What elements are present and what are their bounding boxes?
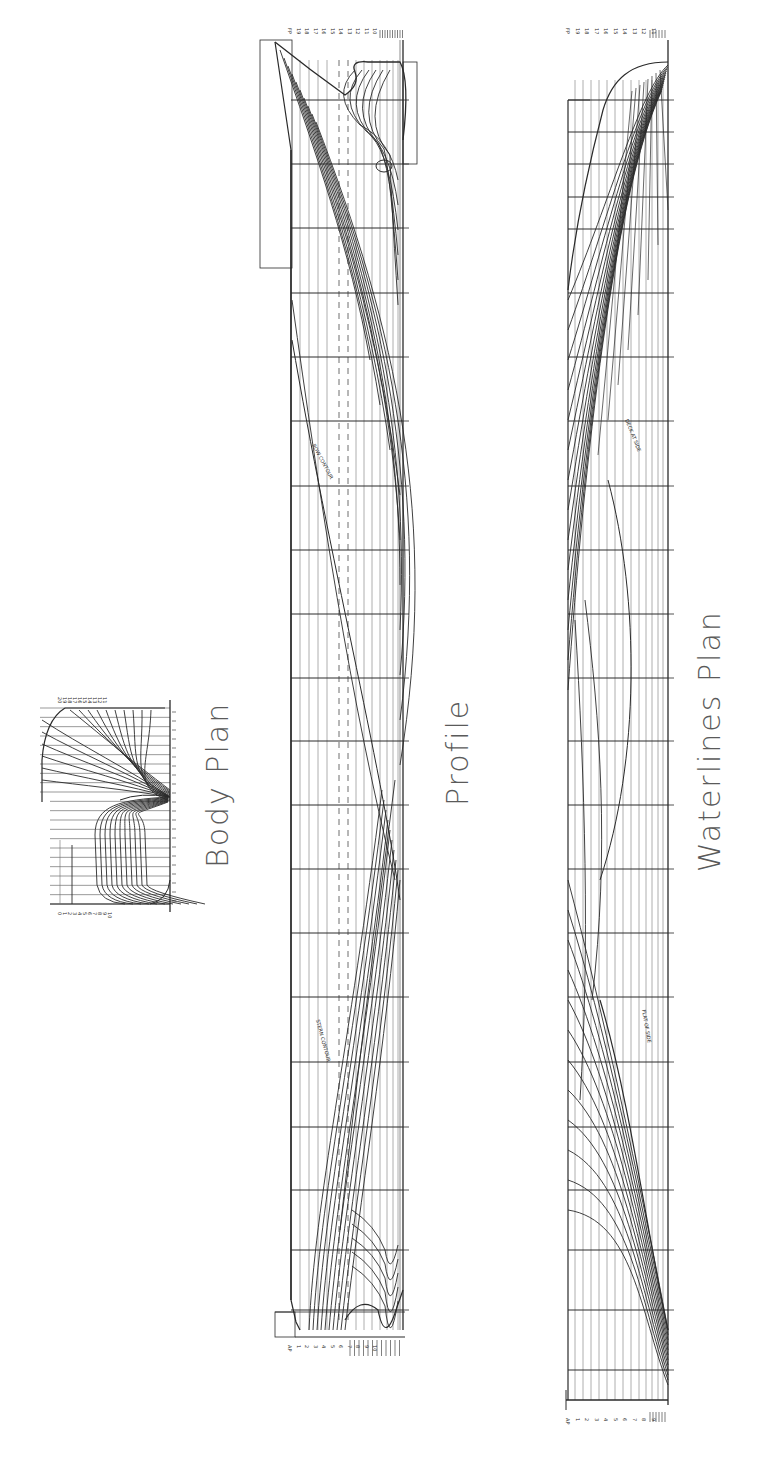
profile-bottom-scale-label: 3 [313,1345,319,1348]
waterlines-bottom-scale-label: AP [565,1418,571,1424]
forebody-section [88,710,170,792]
profile-top-scale-label: 19 [296,28,302,34]
bow-hatch-line [660,70,668,210]
aftbody-section [125,800,173,904]
bow-buttock-curve [284,58,380,405]
waterlines-bottom-scale-label: 6 [622,1418,628,1421]
bow-buttock-curve [292,74,400,495]
waterlines-plan-title: Waterlines Plan [692,610,727,872]
waterlines-top-scale-label: 16 [603,28,609,34]
profile-top-scale-label: 17 [313,28,319,34]
bow-waterline-curve [568,81,664,540]
waterlines-top-scale-label: 11 [651,28,657,34]
profile-title: Profile [440,699,475,806]
waterlines-bottom-scale-label: 1 [575,1418,581,1421]
profile-top-scale-label: 14 [338,28,344,34]
stern-waterline-curve [352,1266,398,1328]
aftbody-section [120,800,168,905]
aftbody-section [129,801,181,905]
profile-bottom-scale-label: AP [287,1345,293,1351]
dimension-box-stern [275,1312,295,1337]
waterlines-bottom-scale-label: 2 [584,1418,590,1421]
waterlines-top-scale-label: 18 [584,28,590,34]
waterlines-bottom-scale-label: 3 [594,1418,600,1421]
bow-waterline-curve [568,85,663,600]
waterline-curve-mid [575,620,585,1100]
forebody-section [106,710,170,795]
profile-top-scale-label: 16 [321,28,327,34]
aftbody-section [136,802,197,905]
waterlines-top-scale-label: 17 [594,28,600,34]
profile-top-scale-label: 18 [304,28,310,34]
waterlines-top-scale-label: 14 [622,28,628,34]
waterlines-top-scale-label: 15 [613,28,619,34]
waterlines-top-scale-label: 12 [641,28,647,34]
waterlines-top-scale-label: FP [565,28,571,34]
profile-top-scale-label: 15 [330,28,336,34]
deck-at-side-annotation: DECK AT SIDE [624,418,643,452]
aftbody-section [115,799,168,904]
forebody-section-lower [42,732,170,797]
profile-bottom-scale-label: 7 [347,1345,353,1348]
profile-bottom-scale-label: 8 [355,1345,361,1348]
body-station-label-fwd: 11 [102,697,108,703]
flat-of-side-annotation: FLAT OF SIDE [641,1009,653,1043]
flat-of-side-curve [600,480,631,880]
profile-bottom-scale-label: 9 [364,1345,370,1348]
waterlines-bottom-scale-label: 4 [603,1418,609,1421]
waterlines-bottom-scale-label: 7 [632,1418,638,1421]
bow-thruster-opening [376,160,392,172]
transom-outline [291,1300,300,1330]
profile-top-scale-label: 11 [364,28,370,34]
profile-bottom-scale-label: 1 [296,1345,302,1348]
body-plan-title: Body Plan [200,702,235,868]
body-station-label-aft: 10 [107,912,113,918]
bow-contour-line [292,340,400,900]
waterlines-top-scale-label: 13 [632,28,638,34]
waterlines-top-scale-label: 19 [575,28,581,34]
bow-hatch-line [618,85,640,385]
bow-hatch-line [608,88,636,420]
stern-buttock-curve [329,840,392,1330]
profile-top-scale-label: 13 [347,28,353,34]
body-plan: 20191817161514131211012345678910 [40,697,205,918]
bulb-waterline-curve [369,70,398,280]
profile-top-scale-label: 10 [372,28,378,34]
profile-top-scale-label: 12 [355,28,361,34]
profile-top-scale-label: FP [287,28,293,34]
waterlines-bottom-scale-label: 9 [651,1418,657,1421]
lines-plan-drawing: 20191817161514131211012345678910 FP19181… [0,0,761,1464]
profile-view: FP19181716151413121110AP12345678910BOW C… [260,28,417,1356]
profile-bottom-scale-label: 5 [330,1345,336,1348]
aftbody-section [133,801,189,904]
dimension-box-bow [260,40,292,268]
stern-waterline-curve [352,1252,398,1312]
profile-bottom-scale-label: 4 [321,1345,327,1348]
waterlines-bottom-scale-label: 8 [641,1418,647,1421]
propeller-aperture-outline [345,1290,403,1328]
waterlines-plan-view: FP191817161514131211AP123456789DECK AT S… [565,28,674,1424]
profile-bottom-scale-label: 2 [304,1345,310,1348]
bow-waterline-curve [568,79,665,510]
waterlines-bottom-scale-label: 5 [613,1418,619,1421]
stem-outline [275,42,291,1300]
aftbody-section [138,802,205,904]
profile-bottom-scale-label: 6 [338,1345,344,1348]
